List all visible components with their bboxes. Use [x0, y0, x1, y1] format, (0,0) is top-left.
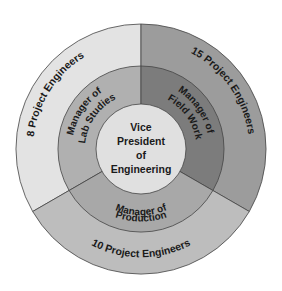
center-line-4: Engineering — [111, 163, 172, 175]
center-line-1: Vice — [130, 121, 152, 133]
center-line-2: President — [117, 135, 165, 147]
org-diagram: 8 Project Engineers 15 Project Engineers… — [0, 0, 282, 291]
center-line-3: of — [136, 149, 146, 161]
